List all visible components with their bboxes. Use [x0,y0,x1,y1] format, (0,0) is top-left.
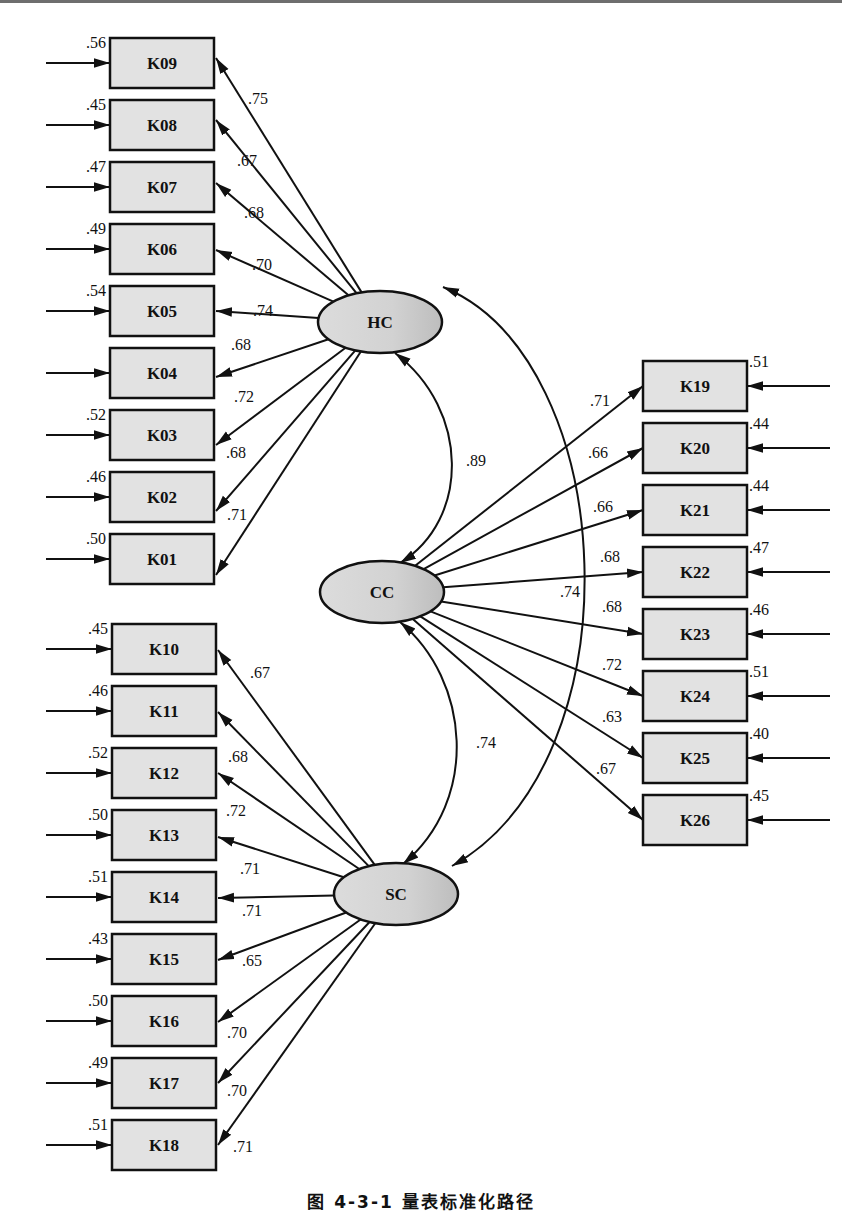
loading-path [415,386,643,566]
indicator-label: K05 [147,302,177,321]
error-variance-label: .40 [749,725,769,742]
error-variance-label: .56 [86,34,106,51]
loading-path [434,510,643,576]
loading-label: .70 [227,1082,247,1099]
correlation-arc-cc-sc [400,622,457,864]
indicator-label: K01 [147,550,177,569]
loading-path [420,616,643,758]
loading-path [216,120,357,293]
indicator-label: K19 [680,377,710,396]
error-variance-label: .44 [749,415,769,432]
error-variance-label: .54 [86,282,106,299]
loading-path [218,773,359,869]
loading-label: .70 [252,256,272,273]
loading-label: .67 [250,664,270,681]
error-variance-label: .51 [88,868,108,885]
indicator-label: K04 [147,364,178,383]
indicator-label: K18 [149,1136,179,1155]
correlation-label: .74 [476,734,496,751]
indicator-label: K02 [147,488,177,507]
error-variance-label: .47 [86,158,106,175]
loading-path [430,611,643,696]
error-variance-label: .49 [88,1054,108,1071]
loading-label: .72 [602,656,622,673]
loading-label: .68 [602,598,622,615]
figure-caption: 图 4-3-1 量表标准化路径 [0,1188,842,1213]
loading-label: .71 [227,506,247,523]
indicator-label: K21 [680,501,710,520]
error-variance-label: .49 [86,220,106,237]
indicator-label: K25 [680,749,710,768]
loading-label: .67 [596,760,616,777]
error-variance-label: .45 [88,620,108,637]
correlation-label: .74 [560,583,580,600]
loading-path [216,250,333,302]
loading-label: .71 [233,1138,253,1155]
error-variance-label: .52 [86,406,106,423]
loading-path [216,350,355,511]
loading-label: .68 [226,444,246,461]
loading-path [218,912,346,960]
loading-path [218,922,370,1083]
loading-label: .66 [588,444,608,461]
indicator-label: K22 [680,563,710,582]
loading-label: .68 [228,748,248,765]
error-variance-label: .44 [749,477,769,494]
indicator-label: K24 [680,687,711,706]
loading-path [216,351,361,575]
loading-label: .67 [237,152,257,169]
error-variance-label: .51 [749,353,769,370]
error-variance-label: .43 [88,930,108,947]
loading-label: .70 [227,1024,247,1041]
loading-path [443,572,643,587]
loading-label: .72 [234,388,254,405]
indicator-label: K16 [149,1012,179,1031]
error-variance-label: .46 [749,601,769,618]
error-variance-label: .45 [86,96,106,113]
indicator-label: K26 [680,811,710,830]
indicator-label: K11 [149,702,178,721]
indicator-label: K17 [149,1074,180,1093]
indicator-label: K23 [680,625,710,644]
indicator-label: K14 [149,888,180,907]
loading-label: .66 [593,498,613,515]
latent-factor-label: HC [367,313,393,332]
error-variance-label: .51 [88,1116,108,1133]
loading-label: .75 [248,90,268,107]
error-variance-label: .45 [749,787,769,804]
error-variance-label: .46 [88,682,108,699]
indicator-label: K20 [680,439,710,458]
correlation-arc-hc-cc [395,353,452,563]
indicator-label: K03 [147,426,177,445]
error-variance-label: .50 [88,992,108,1009]
latent-factor-label: SC [385,885,407,904]
loading-label: .72 [226,802,246,819]
loading-path [218,895,334,898]
loading-label: .68 [231,336,251,353]
error-variance-label: .51 [749,663,769,680]
loading-label: .71 [242,902,262,919]
indicator-label: K09 [147,54,177,73]
error-variance-label: .47 [749,539,769,556]
loading-label: .63 [602,708,622,725]
loading-label: .65 [242,952,262,969]
loading-label: .68 [600,548,620,565]
indicator-label: K07 [147,178,178,197]
loading-label: .71 [240,860,260,877]
loading-path [218,837,344,877]
latent-factor-label: CC [370,583,395,602]
loading-label: .74 [253,302,273,319]
error-variance-label: .50 [88,806,108,823]
indicator-label: K08 [147,116,177,135]
indicator-label: K10 [149,640,179,659]
indicator-label: K15 [149,950,179,969]
loading-path [216,58,362,292]
indicator-label: K06 [147,240,177,259]
correlation-label: .89 [466,452,486,469]
loading-label: .71 [590,392,610,409]
error-variance-label: .52 [88,744,108,761]
error-variance-label: .46 [86,468,106,485]
indicator-label: K13 [149,826,179,845]
error-variance-label: .50 [86,530,106,547]
indicator-label: K12 [149,764,179,783]
